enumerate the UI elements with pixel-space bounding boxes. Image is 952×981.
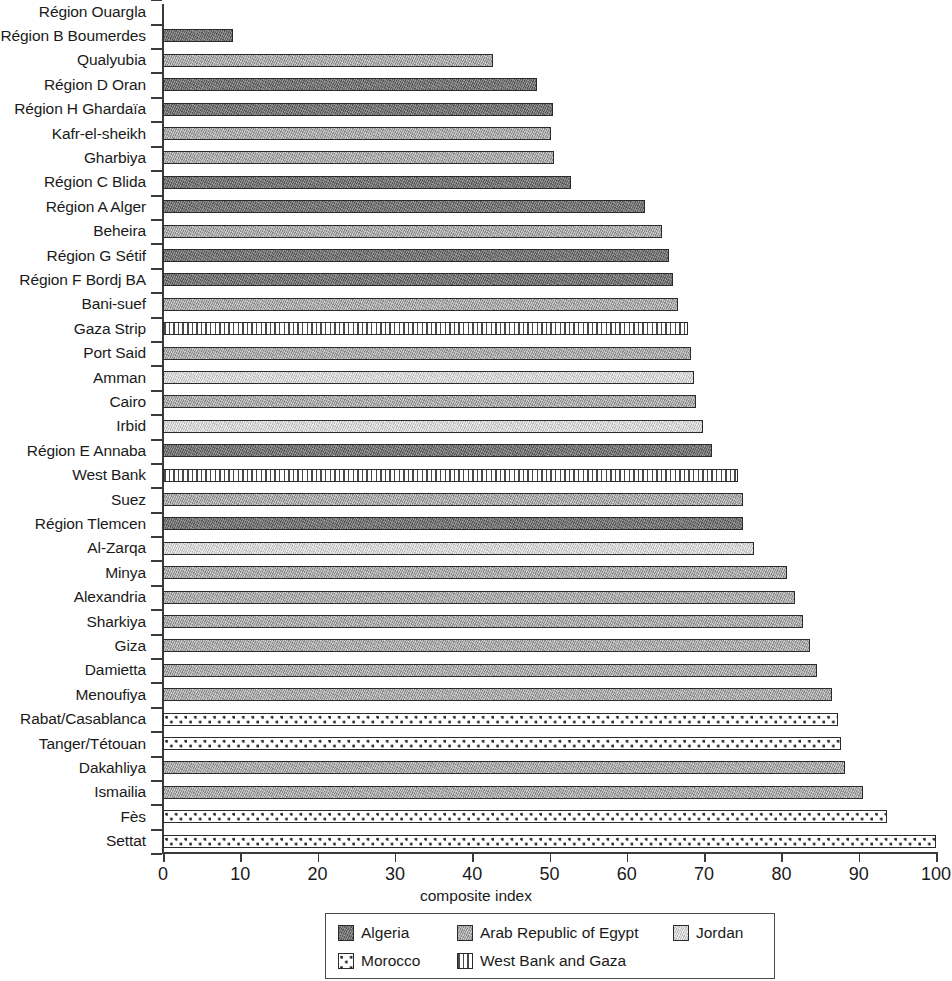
bar-row xyxy=(163,566,936,579)
legend-item: Algeria xyxy=(338,922,409,944)
x-axis-tick-label: 40 xyxy=(442,864,502,885)
bar xyxy=(163,54,493,67)
category-label: Dakahliya xyxy=(79,760,146,776)
y-axis-tick xyxy=(151,829,162,831)
bar xyxy=(163,444,712,457)
x-axis-tick xyxy=(936,852,938,862)
category-label: Région Tlemcen xyxy=(35,516,146,532)
y-axis-tick xyxy=(151,804,162,806)
bar-row xyxy=(163,420,936,433)
category-label: Région G Sétif xyxy=(47,248,146,264)
bar-row xyxy=(163,200,936,213)
x-axis-tick-label: 30 xyxy=(365,864,425,885)
bar-row xyxy=(163,713,936,726)
x-axis-tick-label: 70 xyxy=(674,864,734,885)
bar-row xyxy=(163,444,936,457)
x-axis-tick xyxy=(240,852,242,862)
bar xyxy=(163,200,645,213)
legend-swatch-egypt xyxy=(457,925,473,941)
category-label: Menoufiya xyxy=(75,687,146,703)
bar-row xyxy=(163,225,936,238)
bar xyxy=(163,420,703,433)
bar-row xyxy=(163,249,936,262)
x-axis-tick xyxy=(318,852,320,862)
y-axis-tick xyxy=(151,24,162,26)
legend-swatch-wbg xyxy=(457,953,473,969)
category-label: Damietta xyxy=(85,662,146,678)
bar-row xyxy=(163,54,936,67)
category-label: Région D Oran xyxy=(44,77,146,93)
y-axis-tick xyxy=(151,48,162,50)
x-axis-tick-label: 100 xyxy=(906,864,952,885)
x-axis-tick-label: 50 xyxy=(520,864,580,885)
y-axis-tick xyxy=(151,634,162,636)
x-axis-tick xyxy=(550,852,552,862)
category-label: Région F Bordj BA xyxy=(19,272,146,288)
bar xyxy=(163,761,845,774)
bar xyxy=(163,664,817,677)
category-label: Région E Annaba xyxy=(27,443,146,459)
legend-label: Jordan xyxy=(696,925,743,941)
bar-row xyxy=(163,615,936,628)
bar-row xyxy=(163,127,936,140)
bar xyxy=(163,225,662,238)
y-axis-tick xyxy=(151,585,162,587)
category-label: Suez xyxy=(111,492,146,508)
category-label: Région B Boumerdes xyxy=(0,28,146,44)
y-axis-tick xyxy=(151,268,162,270)
bar-row xyxy=(163,737,936,750)
category-label: Bani-suef xyxy=(81,296,146,312)
bar-row xyxy=(163,786,936,799)
bar xyxy=(163,273,673,286)
category-label: Al-Zarqa xyxy=(87,540,146,556)
bar-row xyxy=(163,5,936,18)
y-axis-tick xyxy=(151,780,162,782)
legend-item: Jordan xyxy=(673,922,743,944)
legend-item: Arab Republic of Egypt xyxy=(457,922,639,944)
bar-row xyxy=(163,517,936,530)
legend-swatch-algeria xyxy=(338,925,354,941)
bar-row xyxy=(163,688,936,701)
bar xyxy=(163,639,810,652)
bar-row xyxy=(163,469,936,482)
bar-row xyxy=(163,151,936,164)
bar xyxy=(163,103,553,116)
bar-row xyxy=(163,835,936,848)
y-axis-tick xyxy=(151,146,162,148)
category-label: Région H Ghardaïa xyxy=(14,101,146,117)
x-axis-tick-label: 10 xyxy=(210,864,270,885)
y-axis-tick xyxy=(151,609,162,611)
y-axis-tick xyxy=(151,219,162,221)
bar-row xyxy=(163,273,936,286)
x-axis-tick xyxy=(704,852,706,862)
bar xyxy=(163,395,696,408)
category-label: Giza xyxy=(115,638,146,654)
bar xyxy=(163,371,694,384)
y-axis-tick xyxy=(151,560,162,562)
category-label: Port Said xyxy=(83,345,146,361)
y-axis-tick xyxy=(151,317,162,319)
category-label: Région C Blida xyxy=(44,174,146,190)
bar xyxy=(163,737,841,750)
bar-row xyxy=(163,493,936,506)
bar xyxy=(163,615,803,628)
bar xyxy=(163,322,688,335)
legend-label: Arab Republic of Egypt xyxy=(480,925,639,941)
bar xyxy=(163,469,738,482)
legend-item: Morocco xyxy=(338,950,420,972)
chart-legend: AlgeriaArab Republic of EgyptJordanMoroc… xyxy=(325,913,775,979)
bar xyxy=(163,810,887,823)
y-axis-tick xyxy=(151,414,162,416)
y-axis-tick xyxy=(151,853,162,855)
bar-row xyxy=(163,29,936,42)
bar-row xyxy=(163,639,936,652)
y-axis-tick xyxy=(151,195,162,197)
bar-row xyxy=(163,395,936,408)
x-axis-tick xyxy=(472,852,474,862)
y-axis-tick xyxy=(151,365,162,367)
bar xyxy=(163,29,233,42)
y-axis-tick xyxy=(151,439,162,441)
bar-row xyxy=(163,103,936,116)
y-axis-tick xyxy=(151,72,162,74)
category-label: Qualyubia xyxy=(77,52,146,68)
